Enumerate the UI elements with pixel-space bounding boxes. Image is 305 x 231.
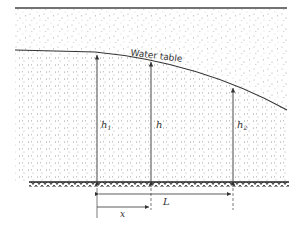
impermeable-base	[29, 182, 289, 187]
label-h: h	[156, 119, 162, 130]
groundwater-diagram: Water table h1 h h2 L x	[0, 0, 305, 231]
label-L: L	[162, 196, 170, 207]
label-x: x	[120, 209, 125, 219]
